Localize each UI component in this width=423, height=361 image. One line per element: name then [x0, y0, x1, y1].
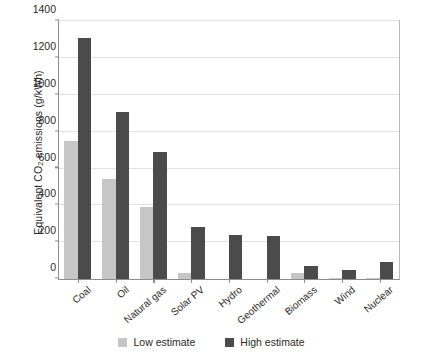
bar-high-estimate — [78, 38, 92, 279]
bar-group — [178, 21, 205, 279]
bar-low-estimate — [366, 278, 380, 279]
bar-low-estimate — [178, 273, 192, 279]
bar-group — [366, 21, 393, 279]
bar-low-estimate — [140, 207, 154, 279]
y-tick-label: 400 — [38, 187, 56, 199]
bar-high-estimate — [191, 227, 205, 279]
x-tick-mark — [153, 279, 154, 283]
legend-item: High estimate — [225, 336, 304, 348]
x-tick-mark — [191, 279, 192, 283]
x-tick-mark — [229, 279, 230, 283]
bar-high-estimate — [267, 236, 281, 279]
bar-group — [253, 21, 280, 279]
bar-group — [102, 21, 129, 279]
x-tick-label: Wind — [333, 284, 358, 307]
bar-high-estimate — [304, 266, 318, 279]
bar-low-estimate — [329, 278, 343, 279]
legend-swatch-high — [225, 338, 234, 347]
bar-high-estimate — [380, 262, 394, 279]
bar-group — [64, 21, 91, 279]
x-tick-label: Biomass — [283, 284, 319, 317]
bar-group — [329, 21, 356, 279]
y-tick-label: 0 — [50, 261, 56, 273]
x-tick-label: Oil — [114, 284, 130, 300]
y-tick-label: 800 — [38, 114, 56, 126]
legend-swatch-low — [118, 338, 127, 347]
y-tick-mark — [55, 240, 59, 241]
y-tick-mark — [55, 56, 59, 57]
bar-low-estimate — [102, 179, 116, 279]
x-tick-label: Solar PV — [169, 284, 206, 318]
bar-low-estimate — [291, 273, 305, 279]
x-tick-mark — [304, 279, 305, 283]
x-tick-mark — [116, 279, 117, 283]
bar-high-estimate — [153, 152, 167, 279]
legend-label: High estimate — [240, 336, 304, 348]
x-tick-label: Coal — [70, 284, 93, 306]
plot-area: 0200400600800100012001400 — [58, 20, 400, 280]
legend-label: Low estimate — [133, 336, 195, 348]
bar-high-estimate — [342, 270, 356, 279]
bar-low-estimate — [64, 141, 78, 279]
y-tick-mark — [55, 93, 59, 94]
legend-item: Low estimate — [118, 336, 195, 348]
x-tick-label: Nuclear — [361, 284, 394, 315]
x-tick-mark — [78, 279, 79, 283]
x-tick-mark — [380, 279, 381, 283]
bar-chart-figure: Equivalent CO2 emissions (g/kWh) 0200400… — [0, 0, 423, 361]
x-tick-label: Hydro — [216, 284, 244, 310]
y-tick-label: 200 — [38, 224, 56, 236]
x-tick-mark — [342, 279, 343, 283]
bar-group — [291, 21, 318, 279]
y-tick-mark — [55, 130, 59, 131]
y-tick-mark — [55, 20, 59, 21]
y-tick-label: 600 — [38, 151, 56, 163]
y-tick-label: 1200 — [33, 40, 56, 52]
chart-legend: Low estimateHigh estimate — [0, 336, 423, 348]
y-tick-mark — [55, 204, 59, 205]
bar-high-estimate — [116, 112, 130, 279]
x-tick-mark — [267, 279, 268, 283]
y-tick-label: 1000 — [33, 77, 56, 89]
bar-high-estimate — [229, 235, 243, 279]
bar-group — [215, 21, 242, 279]
y-tick-mark — [55, 167, 59, 168]
y-tick-label: 1400 — [33, 3, 56, 15]
y-tick-mark — [55, 277, 59, 278]
bar-group — [140, 21, 167, 279]
